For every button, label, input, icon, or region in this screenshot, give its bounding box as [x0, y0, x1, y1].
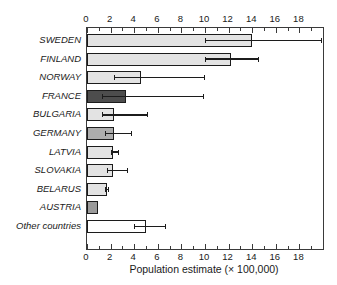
error-bar-cap	[102, 112, 103, 117]
category-label: BELARUS	[0, 183, 81, 194]
major-tick	[158, 244, 159, 249]
minor-tick	[240, 246, 241, 249]
error-bar-cap	[203, 94, 204, 99]
category-label: FINLAND	[0, 53, 81, 64]
x-tick-label: 14	[240, 13, 262, 24]
major-tick	[111, 244, 112, 249]
error-bar-cap	[105, 187, 106, 192]
error-bar-cap	[147, 112, 148, 117]
x-tick-label: 6	[146, 251, 168, 262]
error-bar	[102, 114, 148, 116]
population-bar-chart: 024681012141618 024681012141618 SWEDENFI…	[0, 0, 337, 285]
major-tick	[276, 244, 277, 249]
bar	[87, 201, 98, 214]
error-bar	[205, 40, 322, 42]
minor-tick	[264, 246, 265, 249]
minor-tick	[122, 28, 123, 31]
x-tick-label: 8	[169, 13, 191, 24]
major-tick	[299, 244, 300, 249]
minor-tick	[240, 28, 241, 31]
error-bar-cap	[114, 75, 115, 80]
error-bar	[105, 133, 132, 135]
x-tick-label: 6	[146, 13, 168, 24]
category-label: BULGARIA	[0, 108, 81, 119]
major-tick	[252, 244, 253, 249]
minor-tick	[170, 28, 171, 31]
major-tick	[181, 28, 182, 33]
minor-tick	[311, 246, 312, 249]
minor-tick	[311, 28, 312, 31]
error-bar-cap	[105, 131, 106, 136]
minor-tick	[170, 246, 171, 249]
x-tick-label: 4	[122, 13, 144, 24]
plot-area	[86, 27, 324, 250]
error-bar-cap	[205, 57, 206, 62]
error-bar-cap	[127, 168, 128, 173]
major-tick	[276, 28, 277, 33]
x-tick-label: 16	[264, 13, 286, 24]
major-tick	[252, 28, 253, 33]
error-bar-cap	[134, 224, 135, 229]
error-bar	[205, 58, 259, 60]
error-bar	[102, 96, 203, 98]
x-tick-label: 2	[99, 13, 121, 24]
minor-tick	[146, 28, 147, 31]
error-bar-cap	[131, 131, 132, 136]
minor-tick	[146, 246, 147, 249]
category-label: SLOVAKIA	[0, 164, 81, 175]
category-label: Other countries	[0, 220, 81, 231]
error-bar-cap	[107, 168, 108, 173]
major-tick	[134, 244, 135, 249]
x-tick-label: 12	[217, 251, 239, 262]
x-tick-label: 2	[99, 251, 121, 262]
error-bar-cap	[118, 150, 119, 155]
x-tick-label: 18	[287, 251, 309, 262]
major-tick	[111, 28, 112, 33]
error-bar	[107, 170, 128, 172]
x-tick-label: 10	[193, 13, 215, 24]
category-label: SWEDEN	[0, 34, 81, 45]
x-tick-label: 16	[264, 251, 286, 262]
minor-tick	[99, 246, 100, 249]
minor-tick	[122, 246, 123, 249]
error-bar-cap	[205, 38, 206, 43]
x-tick-label: 10	[193, 251, 215, 262]
x-tick-label: 4	[122, 251, 144, 262]
category-label: GERMANY	[0, 127, 81, 138]
major-tick	[87, 28, 88, 33]
error-bar-cap	[111, 150, 112, 155]
major-tick	[299, 28, 300, 33]
minor-tick	[99, 28, 100, 31]
error-bar-cap	[258, 57, 259, 62]
error-bar-cap	[102, 94, 103, 99]
x-tick-label: 8	[169, 251, 191, 262]
x-tick-label: 18	[287, 13, 309, 24]
minor-tick	[288, 28, 289, 31]
category-label: AUSTRIA	[0, 201, 81, 212]
major-tick	[229, 28, 230, 33]
minor-tick	[288, 246, 289, 249]
category-label: NORWAY	[0, 71, 81, 82]
error-bar	[114, 77, 205, 79]
x-tick-label: 0	[75, 251, 97, 262]
x-tick-label: 12	[217, 13, 239, 24]
x-tick-label: 0	[75, 13, 97, 24]
major-tick	[181, 244, 182, 249]
major-tick	[205, 28, 206, 33]
major-tick	[134, 28, 135, 33]
minor-tick	[217, 28, 218, 31]
error-bar-cap	[321, 38, 322, 43]
error-bar-cap	[108, 187, 109, 192]
bar	[87, 146, 113, 159]
category-label: LATVIA	[0, 146, 81, 157]
minor-tick	[193, 28, 194, 31]
major-tick	[158, 28, 159, 33]
major-tick	[87, 244, 88, 249]
error-bar-cap	[165, 224, 166, 229]
major-tick	[205, 244, 206, 249]
error-bar	[134, 226, 166, 228]
category-label: FRANCE	[0, 90, 81, 101]
error-bar-cap	[204, 75, 205, 80]
minor-tick	[264, 28, 265, 31]
minor-tick	[193, 246, 194, 249]
